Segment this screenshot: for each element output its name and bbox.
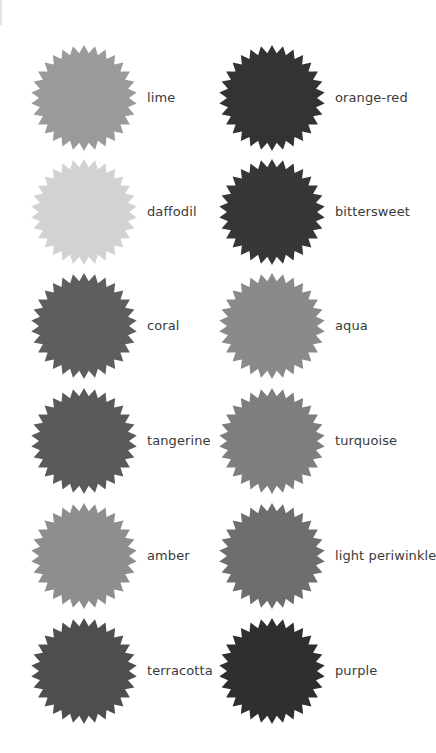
swatch-daffodil: daffodil — [30, 158, 230, 268]
swatch-aqua: aqua — [218, 272, 418, 382]
swatch-light-periwinkle: light periwinkle — [218, 502, 418, 612]
swatch-label: turquoise — [335, 433, 397, 448]
swatch-terracotta: terracotta — [30, 617, 230, 727]
swatch-label: tangerine — [147, 433, 211, 448]
swatch-label: coral — [147, 318, 180, 333]
page-edge — [0, 0, 2, 25]
swatch-lime: lime — [30, 44, 230, 154]
swatch-coral: coral — [30, 272, 230, 382]
swatch-orange-red: orange-red — [218, 44, 418, 154]
swatch-label: terracotta — [147, 663, 213, 678]
swatch-label: orange-red — [335, 90, 408, 105]
swatch-label: light periwinkle — [335, 548, 436, 563]
swatch-purple: purple — [218, 617, 418, 727]
swatch-turquoise: turquoise — [218, 387, 418, 497]
swatch-label: amber — [147, 548, 190, 563]
swatch-label: lime — [147, 90, 175, 105]
swatch-bittersweet: bittersweet — [218, 158, 418, 268]
swatch-amber: amber — [30, 502, 230, 612]
swatch-label: aqua — [335, 318, 368, 333]
swatch-label: purple — [335, 663, 377, 678]
swatch-label: bittersweet — [335, 204, 410, 219]
swatch-tangerine: tangerine — [30, 387, 230, 497]
swatch-label: daffodil — [147, 204, 197, 219]
